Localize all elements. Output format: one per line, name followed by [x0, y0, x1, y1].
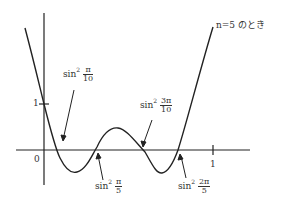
polynomial-curve	[25, 27, 213, 173]
arrowhead-2	[96, 153, 101, 159]
root-label-4: sin2 2π5	[178, 178, 210, 195]
x-tick-label: 1	[210, 160, 216, 169]
curve-label: n=5 のとき	[216, 21, 265, 30]
y-tick-label: 1	[33, 99, 39, 108]
arrow-root-1	[63, 90, 74, 140]
root-label-2: sin2 π5	[95, 178, 122, 195]
arrowhead-4	[178, 154, 183, 160]
arrowhead-3	[141, 141, 146, 147]
arrowhead-1	[61, 135, 66, 141]
root-label-1: sin2 π10	[63, 66, 93, 83]
origin-label: 0	[34, 155, 40, 164]
root-label-3: sin2 3π10	[140, 97, 172, 114]
